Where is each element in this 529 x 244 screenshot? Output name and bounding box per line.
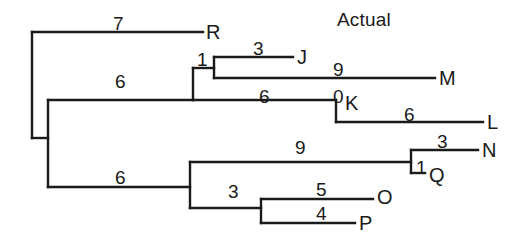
branch-length-K: 0 [333,87,344,106]
taxon-label-j: J [297,47,307,67]
tree-branch-lines [0,0,529,244]
branch-length-OP: 3 [228,182,239,201]
taxon-label-o: O [377,187,393,207]
branch-length-O: 5 [316,180,327,199]
branch-length-P: 4 [316,204,327,223]
figure-title: Actual [337,10,391,29]
branch-length-N: 3 [437,132,448,151]
branch-length-L: 6 [404,105,415,124]
branch-length-node1: 1 [197,50,208,69]
taxon-label-r: R [206,22,220,42]
branch-length-KL: 6 [259,87,270,106]
taxon-label-n: N [482,140,496,160]
branch-length-M: 9 [333,60,344,79]
phylogenetic-tree-figure: Actual RJMKLNQOP 761396066931354 [0,0,529,244]
branch-length-node-NQ: 1 [416,158,427,177]
branch-length-upper-clade: 6 [115,72,126,91]
branch-length-NQ: 9 [295,138,306,157]
branch-length-R: 7 [113,14,124,33]
branch-length-J: 3 [253,39,264,58]
taxon-label-k: K [345,93,358,113]
branch-length-lower-clade: 6 [115,168,126,187]
taxon-label-m: M [439,68,456,88]
taxon-label-p: P [359,213,372,233]
branch-line-group [32,32,483,223]
taxon-label-q: Q [429,165,445,185]
taxon-label-l: L [487,112,498,132]
